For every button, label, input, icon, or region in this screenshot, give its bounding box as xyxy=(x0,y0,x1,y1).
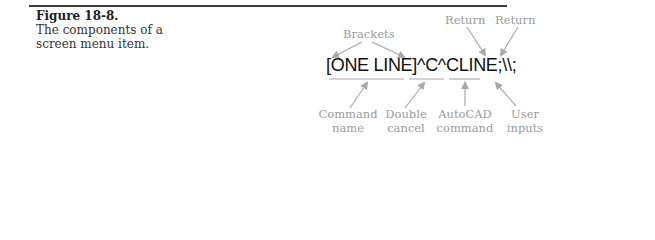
label-line: name xyxy=(313,121,383,135)
label-command-name: Command name xyxy=(313,107,383,135)
label-line: Command xyxy=(313,107,383,121)
label-line: cancel xyxy=(383,121,429,135)
label-line: AutoCAD xyxy=(434,107,496,121)
label-line: Double xyxy=(383,107,429,121)
label-line: User xyxy=(502,107,548,121)
label-user-inputs: User inputs xyxy=(502,107,548,135)
label-autocad-command: AutoCAD command xyxy=(434,107,496,135)
label-double-cancel: Double cancel xyxy=(383,107,429,135)
label-line: inputs xyxy=(502,121,548,135)
label-line: command xyxy=(434,121,496,135)
